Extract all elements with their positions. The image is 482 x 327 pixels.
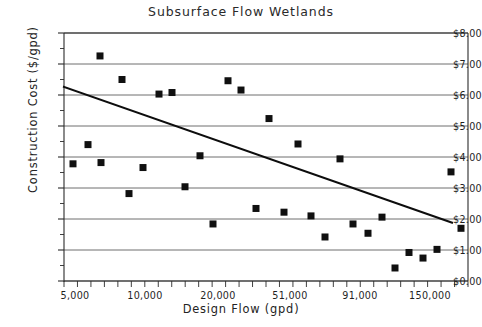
data-point: [379, 214, 386, 221]
data-point: [406, 249, 413, 256]
data-point: [119, 76, 126, 83]
chart-container: Subsurface Flow Wetlands $0.00$1.00$2.00…: [0, 0, 482, 327]
x-axis-ticks: [64, 281, 468, 287]
data-point: [210, 220, 217, 227]
data-point: [308, 212, 315, 219]
data-point: [322, 233, 329, 240]
trend-line: [64, 87, 452, 223]
data-point: [448, 168, 455, 175]
data-point: [295, 140, 302, 147]
data-point: [238, 87, 245, 94]
data-point: [337, 155, 344, 162]
data-point: [156, 91, 163, 98]
data-point: [225, 77, 232, 84]
data-point: [458, 225, 465, 232]
data-point: [281, 209, 288, 216]
y-axis-title-text: Construction Cost ($/gpd): [26, 26, 40, 193]
data-points: [70, 52, 465, 271]
plot-area: [0, 0, 482, 327]
data-point: [392, 264, 399, 271]
y-axis-title: Construction Cost ($/gpd): [22, 0, 41, 225]
data-point: [85, 141, 92, 148]
data-point: [97, 52, 104, 59]
data-point: [98, 159, 105, 166]
data-point: [169, 89, 176, 96]
trend-line-segment: [64, 87, 452, 223]
data-point: [253, 205, 260, 212]
data-point: [365, 230, 372, 237]
data-point: [197, 152, 204, 159]
data-point: [182, 183, 189, 190]
data-point: [434, 246, 441, 253]
data-point: [420, 255, 427, 262]
y-axis-ticks: [58, 33, 64, 281]
data-point: [350, 220, 357, 227]
data-point: [70, 160, 77, 167]
data-point: [126, 190, 133, 197]
data-point: [140, 164, 147, 171]
data-point: [266, 115, 273, 122]
x-axis-title: Design Flow (gpd): [0, 302, 482, 316]
